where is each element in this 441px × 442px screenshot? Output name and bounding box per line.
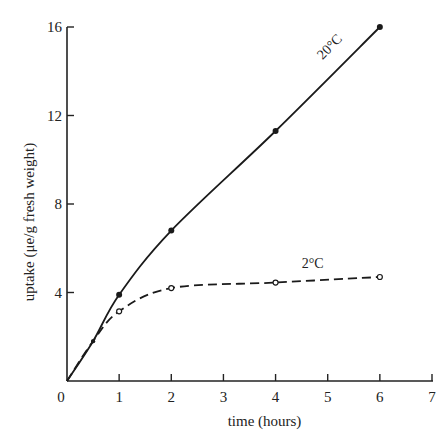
y-tick-label: 4 bbox=[55, 285, 63, 301]
y-tick-label: 8 bbox=[55, 196, 63, 212]
data-point bbox=[377, 24, 383, 30]
data-point bbox=[377, 275, 382, 280]
uptake-chart: 01234567481216 20°C 2°C time (hours) upt… bbox=[0, 0, 441, 442]
y-axis-title: uptake (μe/g fresh weight) bbox=[21, 143, 38, 301]
y-tick-label: 12 bbox=[47, 108, 62, 124]
series-label-2c: 2°C bbox=[302, 256, 324, 271]
x-tick-label: 7 bbox=[428, 389, 436, 405]
series-line-2c bbox=[67, 277, 380, 381]
x-tick-label: 1 bbox=[115, 389, 123, 405]
x-tick-label: 2 bbox=[168, 389, 176, 405]
x-tick-label: 3 bbox=[220, 389, 228, 405]
series-label-20c: 20°C bbox=[314, 31, 345, 62]
axes: 01234567481216 bbox=[47, 19, 436, 405]
x-tick-label: 4 bbox=[272, 389, 280, 405]
x-tick-label: 5 bbox=[324, 389, 332, 405]
data-point bbox=[169, 286, 174, 291]
x-tick-label: 0 bbox=[57, 389, 65, 405]
data-point bbox=[91, 339, 95, 343]
series-group bbox=[67, 24, 383, 381]
x-axis-title: time (hours) bbox=[228, 413, 302, 430]
data-point bbox=[273, 280, 278, 285]
series-line-20c bbox=[67, 27, 380, 381]
data-point bbox=[116, 292, 122, 298]
x-tick-label: 6 bbox=[376, 389, 384, 405]
data-point bbox=[168, 228, 174, 234]
data-point bbox=[117, 309, 122, 314]
data-point bbox=[273, 128, 279, 134]
y-tick-label: 16 bbox=[47, 19, 63, 35]
